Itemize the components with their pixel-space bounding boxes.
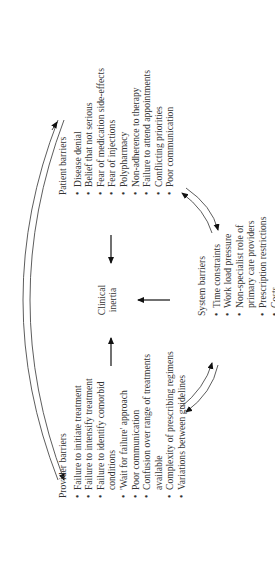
patient-item: Conflicting priorities bbox=[153, 15, 165, 195]
patient-item: Failure to attend appointments bbox=[141, 15, 153, 195]
provider-item: Failure to intensify treatment bbox=[83, 318, 95, 498]
provider-item: Poor communication bbox=[130, 318, 142, 498]
patient-item: Non-adherence to therapy bbox=[130, 15, 142, 195]
system-item: Time constraints bbox=[211, 186, 223, 316]
provider-item: Confusion over range of treatments bbox=[141, 318, 153, 498]
provider-item: Failure to initiate treatment bbox=[72, 318, 84, 498]
provider-item: 'Wait for failure' approach bbox=[118, 318, 130, 498]
patient-item: Fear of injections bbox=[106, 15, 118, 195]
patient-item: Polypharmacy bbox=[118, 15, 130, 195]
provider-item: Variations between guidelines bbox=[176, 318, 188, 498]
system-item: Work load pressure bbox=[222, 186, 234, 316]
patient-item: Belief that not serious bbox=[83, 15, 95, 195]
provider-item: Complexity of prescribing regimens bbox=[164, 318, 176, 498]
patient-title: Patient barriers bbox=[57, 15, 69, 195]
system-item: Non-specialist role of bbox=[234, 186, 246, 316]
system-item: Prescription restrictions bbox=[257, 186, 269, 316]
provider-title: Provider barriers bbox=[57, 318, 69, 498]
provider-barriers: Provider barriers Failure to initiate tr… bbox=[57, 318, 188, 498]
system-item-cont: primary care providers bbox=[245, 186, 257, 316]
system-title: System barriers bbox=[196, 186, 208, 316]
patient-item: Poor communication bbox=[164, 15, 176, 195]
system-item: Costs bbox=[269, 186, 275, 316]
provider-item-cont: conditions bbox=[106, 318, 118, 498]
provider-patient-arc-outer bbox=[23, 120, 58, 480]
provider-item: Failure to identify comorbid bbox=[95, 318, 107, 498]
patient-item: Fear of medication side-effects bbox=[95, 15, 107, 195]
system-barriers: System barriers Time constraints Work lo… bbox=[196, 186, 275, 316]
clinical-inertia-diagram: Clinical inertia Provider barriers Failu… bbox=[0, 0, 275, 568]
provider-item-cont: available bbox=[153, 318, 165, 498]
patient-barriers: Patient barriers Disease denial Belief t… bbox=[57, 15, 176, 195]
patient-item: Disease denial bbox=[72, 15, 84, 195]
provider-system-arc-b bbox=[186, 365, 218, 412]
